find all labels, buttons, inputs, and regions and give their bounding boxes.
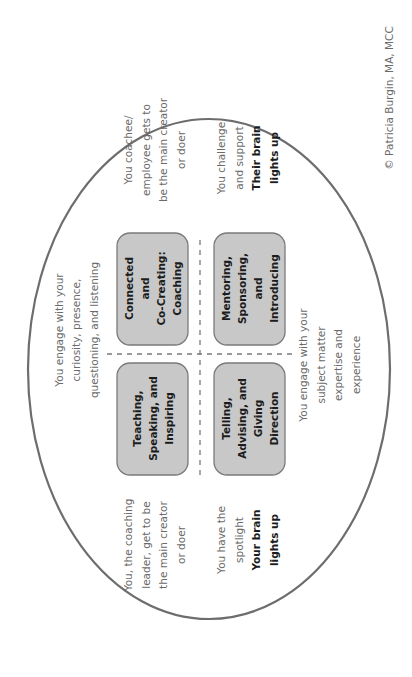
note-leader-creator: You, the coaching leader, get to be the … [116, 480, 194, 610]
coaching-leader-diagram: Connected and Co-Creating: Coaching Ment… [0, 0, 412, 677]
label-telling: Telling, Advising, and Giving Direction [214, 363, 285, 475]
note-challenge-support: You challenge and support Their brain li… [209, 103, 287, 213]
label-connected: Connected and Co-Creating: Coaching [117, 233, 188, 345]
copyright-text: © Patricia Burgin, MA, MCC [380, 23, 398, 173]
note-engage-expertise: You engage with your subject matter expe… [291, 300, 369, 430]
note-engage-curiosity: You engage with your curiosity, presence… [45, 250, 109, 410]
note-coachee-creator: You coachee/ employee gets to be the mai… [116, 85, 194, 215]
label-teaching: Teaching, Speaking, and Inspiring [117, 363, 188, 475]
note-spotlight: You have the spotlight Your brain lights… [209, 485, 287, 595]
label-mentoring: Mentoring, Sponsoring, and Introducing [214, 233, 285, 345]
your-brain-lights-up: Your brain [248, 509, 266, 570]
their-brain-lights-up: Their brain [248, 125, 266, 190]
